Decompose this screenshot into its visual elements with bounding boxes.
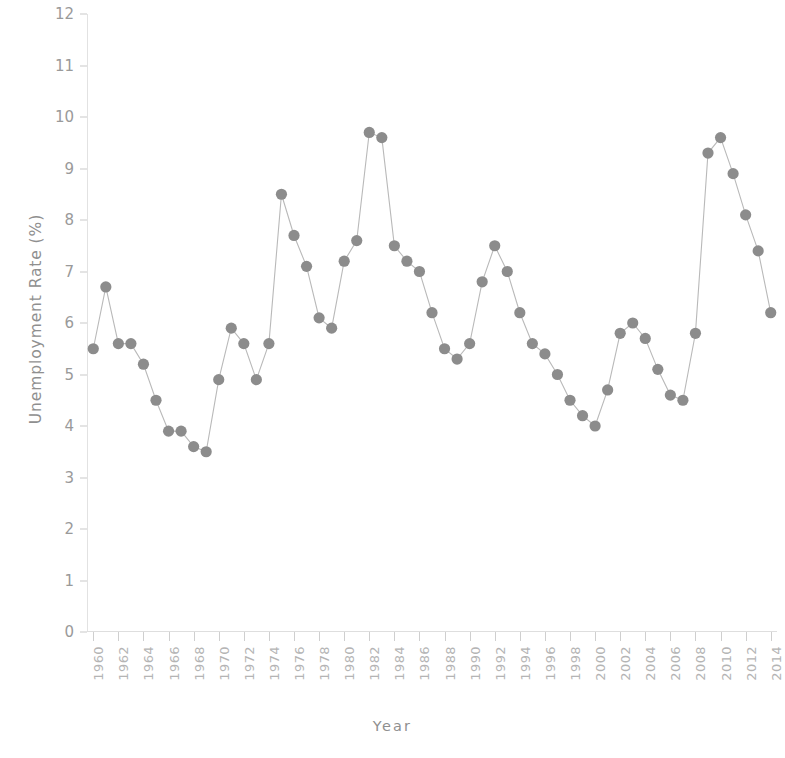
y-tick-label: 4 bbox=[64, 417, 87, 435]
x-tick-mark bbox=[369, 632, 370, 641]
x-tick-label: 1998 bbox=[568, 646, 583, 681]
data-point bbox=[238, 338, 249, 349]
data-point bbox=[100, 281, 111, 292]
data-point bbox=[690, 328, 701, 339]
data-point bbox=[163, 426, 174, 437]
data-point bbox=[677, 395, 688, 406]
x-tick-mark bbox=[93, 632, 94, 641]
x-tick-mark bbox=[344, 632, 345, 641]
y-tick-label: 11 bbox=[55, 57, 87, 75]
data-point bbox=[602, 384, 613, 395]
data-point bbox=[213, 374, 224, 385]
data-series bbox=[87, 14, 777, 632]
data-point bbox=[652, 364, 663, 375]
series-line bbox=[93, 132, 770, 451]
data-point bbox=[727, 168, 738, 179]
x-tick-label: 1968 bbox=[191, 646, 206, 681]
x-tick-label: 2000 bbox=[593, 646, 608, 681]
x-tick-label: 1988 bbox=[442, 646, 457, 681]
data-point bbox=[753, 245, 764, 256]
x-tick-mark bbox=[645, 632, 646, 641]
y-tick-label: 3 bbox=[64, 469, 87, 487]
data-point bbox=[665, 390, 676, 401]
data-point bbox=[125, 338, 136, 349]
x-tick-mark bbox=[570, 632, 571, 641]
data-point bbox=[326, 323, 337, 334]
data-point bbox=[464, 338, 475, 349]
plot-area: 0123456789101112 19601962196419661968197… bbox=[87, 14, 777, 632]
x-tick-label: 1984 bbox=[392, 646, 407, 681]
data-point bbox=[640, 333, 651, 344]
x-tick-label: 1974 bbox=[266, 646, 281, 681]
y-axis-title: Unemployment Rate (%) bbox=[27, 189, 45, 449]
x-tick-mark bbox=[269, 632, 270, 641]
data-point bbox=[313, 312, 324, 323]
data-point bbox=[451, 353, 462, 364]
data-point bbox=[288, 230, 299, 241]
x-tick-label: 1964 bbox=[141, 646, 156, 681]
x-tick-label: 1978 bbox=[317, 646, 332, 681]
data-point bbox=[138, 359, 149, 370]
x-tick-label: 1962 bbox=[116, 646, 131, 681]
data-point bbox=[539, 348, 550, 359]
x-tick-label: 2006 bbox=[668, 646, 683, 681]
x-tick-mark bbox=[595, 632, 596, 641]
y-tick-label: 6 bbox=[64, 314, 87, 332]
x-tick-label: 1994 bbox=[517, 646, 532, 681]
x-tick-label: 1976 bbox=[292, 646, 307, 681]
x-tick-label: 1986 bbox=[417, 646, 432, 681]
x-tick-label: 1992 bbox=[492, 646, 507, 681]
data-point bbox=[389, 240, 400, 251]
data-point bbox=[627, 317, 638, 328]
y-tick-label: 7 bbox=[64, 263, 87, 281]
x-tick-label: 1972 bbox=[241, 646, 256, 681]
x-tick-mark bbox=[746, 632, 747, 641]
data-point bbox=[201, 446, 212, 457]
x-tick-mark bbox=[169, 632, 170, 641]
x-tick-label: 2014 bbox=[768, 646, 783, 681]
x-tick-mark bbox=[495, 632, 496, 641]
x-tick-mark bbox=[219, 632, 220, 641]
data-point bbox=[263, 338, 274, 349]
data-point bbox=[251, 374, 262, 385]
unemployment-rate-line-chart: Unemployment Rate (%) 0123456789101112 1… bbox=[0, 0, 785, 758]
x-tick-label: 2004 bbox=[643, 646, 658, 681]
y-tick-label: 0 bbox=[64, 623, 87, 641]
x-tick-mark bbox=[294, 632, 295, 641]
y-tick-label: 8 bbox=[64, 211, 87, 229]
x-tick-label: 2002 bbox=[618, 646, 633, 681]
data-point bbox=[276, 189, 287, 200]
y-tick-label: 12 bbox=[55, 5, 87, 23]
y-tick-label: 9 bbox=[64, 160, 87, 178]
data-point bbox=[527, 338, 538, 349]
data-point bbox=[301, 261, 312, 272]
data-point bbox=[740, 209, 751, 220]
data-point bbox=[765, 307, 776, 318]
data-point bbox=[401, 256, 412, 267]
x-tick-mark bbox=[445, 632, 446, 641]
x-tick-label: 1966 bbox=[166, 646, 181, 681]
data-point bbox=[489, 240, 500, 251]
y-tick-label: 10 bbox=[55, 108, 87, 126]
x-tick-mark bbox=[520, 632, 521, 641]
data-point bbox=[175, 426, 186, 437]
data-point bbox=[226, 323, 237, 334]
data-point bbox=[339, 256, 350, 267]
data-point bbox=[439, 343, 450, 354]
data-point bbox=[477, 276, 488, 287]
data-point bbox=[351, 235, 362, 246]
x-tick-mark bbox=[419, 632, 420, 641]
data-point bbox=[88, 343, 99, 354]
data-point bbox=[502, 266, 513, 277]
data-point bbox=[150, 395, 161, 406]
x-axis-title: Year bbox=[0, 718, 785, 734]
data-point bbox=[414, 266, 425, 277]
data-point bbox=[702, 147, 713, 158]
x-tick-mark bbox=[394, 632, 395, 641]
y-tick-label: 1 bbox=[64, 572, 87, 590]
x-tick-mark bbox=[670, 632, 671, 641]
x-tick-mark bbox=[721, 632, 722, 641]
x-tick-label: 1982 bbox=[367, 646, 382, 681]
x-tick-label: 1970 bbox=[216, 646, 231, 681]
x-tick-mark bbox=[545, 632, 546, 641]
